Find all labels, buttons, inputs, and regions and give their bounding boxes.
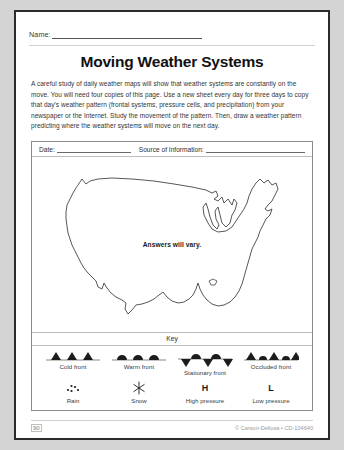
key-symbols-row: Rain (36, 376, 308, 404)
page-footer: 90 © Carson-Dellosa • CD-104640 (31, 424, 313, 432)
key-body: Cold front Warm front (32, 346, 312, 410)
rain-label: Rain (40, 397, 106, 404)
screenshot-canvas: Name: Moving Weather Systems A careful s… (0, 0, 344, 450)
date-write-line[interactable] (57, 146, 131, 153)
snow-icon (132, 381, 146, 395)
key-item-occluded-front: Occluded front (238, 351, 304, 376)
date-label: Date: (39, 146, 55, 153)
page-number: 90 (31, 424, 42, 432)
key-item-high-pressure: H High pressure (172, 382, 238, 404)
high-pressure-icon: H (202, 384, 209, 393)
key-item-cold-front: Cold front (40, 351, 106, 376)
key-fronts-row: Cold front Warm front (36, 351, 308, 376)
key-item-warm-front: Warm front (106, 351, 172, 376)
key-item-low-pressure: L Low pressure (238, 382, 304, 404)
name-label: Name: (29, 30, 51, 39)
key-item-rain: Rain (40, 382, 106, 404)
rain-icon (65, 382, 81, 394)
source-label: Source of Information: (139, 146, 204, 153)
copyright-notice: © Carson-Dellosa • CD-104640 (235, 425, 313, 431)
high-pressure-label: High pressure (172, 397, 238, 404)
key-title: Key (32, 333, 312, 346)
page-title: Moving Weather Systems (29, 53, 315, 71)
occluded-front-icon (243, 351, 299, 362)
date-source-row: Date: Source of Information: (32, 142, 312, 157)
name-write-line[interactable] (52, 31, 202, 39)
low-pressure-label: Low pressure (238, 397, 304, 404)
warm-front-label: Warm front (106, 363, 172, 370)
worksheet-page: Name: Moving Weather Systems A careful s… (14, 10, 330, 440)
cold-front-icon (45, 351, 101, 362)
map-drawing-area[interactable]: Answers will vary. (32, 157, 312, 333)
intro-paragraph: A careful study of daily weather maps wi… (31, 79, 313, 132)
warm-front-icon (111, 351, 167, 362)
low-pressure-icon: L (268, 384, 274, 393)
key-item-snow: Snow (106, 382, 172, 404)
name-row: Name: (29, 30, 315, 39)
snow-label: Snow (106, 397, 172, 404)
source-write-line[interactable] (206, 146, 305, 153)
footer-divider (31, 420, 313, 421)
header-divider (29, 45, 315, 46)
stationary-front-icon (177, 351, 233, 368)
cold-front-label: Cold front (40, 363, 106, 370)
answers-will-vary-note: Answers will vary. (32, 241, 312, 248)
key-item-stationary-front: Stationary front (172, 351, 238, 376)
stationary-front-label: Stationary front (172, 369, 238, 376)
worksheet-activity-box: Date: Source of Information: Answers wil… (31, 141, 313, 411)
occluded-front-label: Occluded front (238, 363, 304, 370)
